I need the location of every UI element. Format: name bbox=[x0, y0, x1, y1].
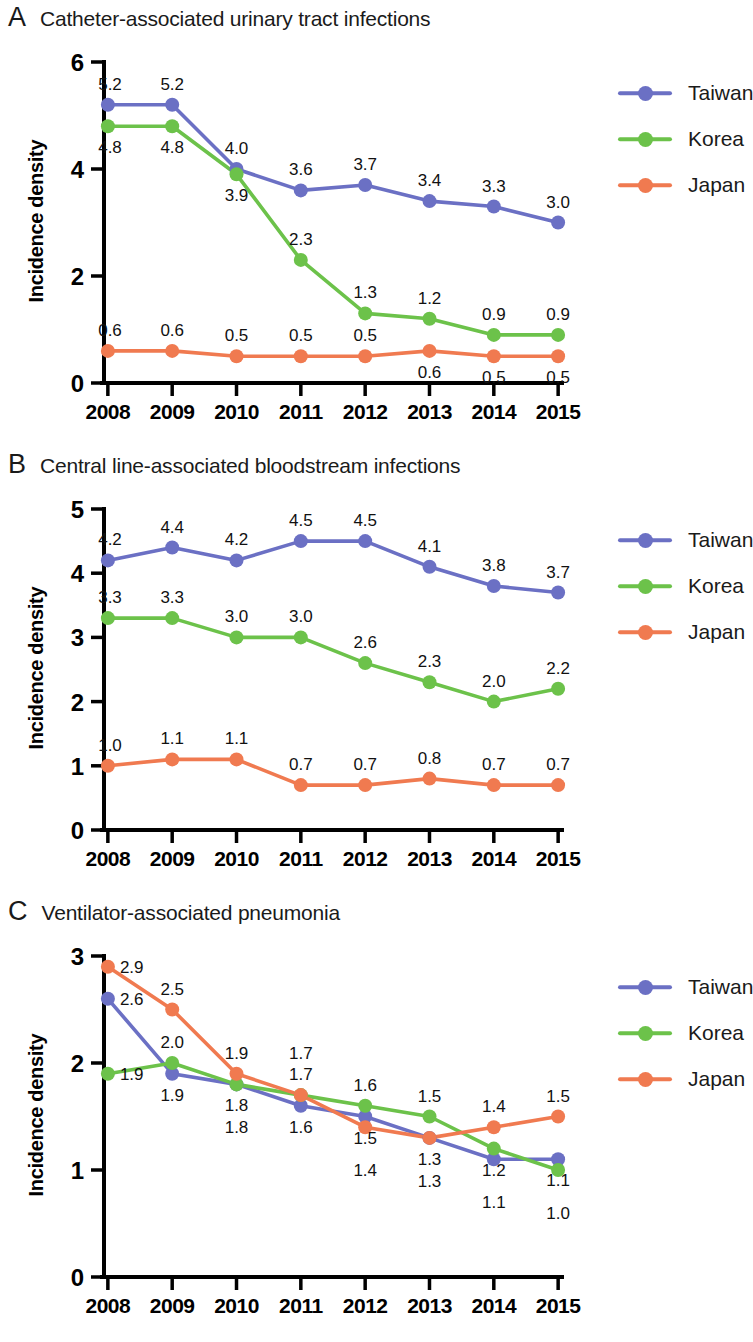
data-label-taiwan: 3.6 bbox=[289, 160, 313, 179]
data-point-japan bbox=[487, 349, 501, 363]
plot-area: 0123200820092010201120122013201420152.61… bbox=[0, 894, 600, 1314]
legend-label: Japan bbox=[688, 1067, 745, 1091]
x-tick-label: 2010 bbox=[214, 400, 259, 423]
x-tick-label: 2010 bbox=[214, 847, 259, 870]
data-point-japan bbox=[165, 1003, 179, 1017]
data-label-taiwan: 3.7 bbox=[353, 155, 377, 174]
data-point-japan bbox=[551, 349, 565, 363]
legend: TaiwanKoreaJapan bbox=[618, 517, 753, 655]
legend-marker-icon bbox=[618, 1070, 672, 1088]
legend-label: Korea bbox=[688, 574, 744, 598]
data-point-taiwan bbox=[294, 183, 308, 197]
data-label-korea: 0.9 bbox=[546, 305, 570, 324]
data-label-taiwan: 3.8 bbox=[482, 556, 506, 575]
data-label-japan: 0.6 bbox=[98, 321, 122, 340]
data-label-japan: 1.1 bbox=[225, 729, 249, 748]
data-point-korea bbox=[487, 695, 501, 709]
data-label-korea: 2.2 bbox=[546, 659, 570, 678]
data-point-japan bbox=[423, 1131, 437, 1145]
data-label-japan: 0.5 bbox=[353, 326, 377, 345]
data-point-korea bbox=[101, 119, 115, 133]
x-tick-label: 2015 bbox=[536, 1294, 582, 1317]
legend-item-taiwan[interactable]: Taiwan bbox=[618, 517, 753, 563]
x-tick-label: 2012 bbox=[343, 400, 388, 423]
legend-marker-icon bbox=[618, 130, 672, 148]
legend-item-korea[interactable]: Korea bbox=[618, 563, 753, 609]
data-label-taiwan: 1.3 bbox=[418, 1150, 442, 1169]
data-point-taiwan bbox=[230, 553, 244, 567]
figure-root: ACatheter-associated urinary tract infec… bbox=[0, 0, 748, 1341]
data-point-japan bbox=[101, 344, 115, 358]
data-label-japan: 2.5 bbox=[160, 980, 184, 999]
x-tick-label: 2008 bbox=[86, 847, 132, 870]
y-tick-label: 3 bbox=[71, 624, 84, 651]
data-label-taiwan: 4.2 bbox=[98, 530, 122, 549]
legend-item-taiwan[interactable]: Taiwan bbox=[618, 964, 753, 1010]
data-point-korea bbox=[551, 328, 565, 342]
legend: TaiwanKoreaJapan bbox=[618, 70, 753, 208]
y-tick-label: 4 bbox=[71, 156, 85, 183]
x-tick-label: 2009 bbox=[150, 400, 195, 423]
data-point-korea bbox=[423, 675, 437, 689]
legend-marker-icon bbox=[618, 176, 672, 194]
legend-item-korea[interactable]: Korea bbox=[618, 116, 753, 162]
y-tick-label: 0 bbox=[71, 817, 84, 844]
data-point-taiwan bbox=[487, 200, 501, 214]
data-point-taiwan bbox=[358, 534, 372, 548]
data-point-japan bbox=[551, 778, 565, 792]
data-point-japan bbox=[294, 1088, 308, 1102]
data-label-taiwan: 4.1 bbox=[418, 537, 442, 556]
data-label-taiwan: 4.2 bbox=[225, 530, 249, 549]
data-label-taiwan: 5.2 bbox=[160, 75, 184, 94]
legend-item-taiwan[interactable]: Taiwan bbox=[618, 70, 753, 116]
x-tick-label: 2014 bbox=[471, 1294, 517, 1317]
data-label-korea: 2.6 bbox=[353, 633, 377, 652]
legend-item-japan[interactable]: Japan bbox=[618, 1056, 753, 1102]
data-point-korea bbox=[487, 328, 501, 342]
data-label-korea: 3.9 bbox=[225, 186, 249, 205]
legend-item-japan[interactable]: Japan bbox=[618, 162, 753, 208]
x-tick-label: 2015 bbox=[536, 400, 582, 423]
x-tick-label: 2013 bbox=[407, 847, 452, 870]
data-label-taiwan: 3.4 bbox=[418, 171, 442, 190]
data-label-japan: 0.8 bbox=[418, 749, 442, 768]
data-label-korea: 1.8 bbox=[225, 1118, 249, 1137]
data-point-japan bbox=[358, 778, 372, 792]
data-label-korea: 2.3 bbox=[418, 652, 442, 671]
data-point-japan bbox=[101, 960, 115, 974]
x-tick-label: 2014 bbox=[471, 847, 517, 870]
data-label-japan: 0.7 bbox=[546, 755, 570, 774]
data-label-korea: 1.5 bbox=[418, 1087, 442, 1106]
legend-item-japan[interactable]: Japan bbox=[618, 609, 753, 655]
x-tick-label: 2015 bbox=[536, 847, 582, 870]
data-label-korea: 1.9 bbox=[120, 1065, 144, 1084]
data-label-korea: 3.0 bbox=[225, 607, 249, 626]
legend-label: Japan bbox=[688, 620, 745, 644]
x-tick-label: 2008 bbox=[86, 400, 132, 423]
data-point-japan bbox=[165, 752, 179, 766]
data-label-taiwan: 1.1 bbox=[546, 1171, 570, 1190]
x-tick-label: 2010 bbox=[214, 1294, 259, 1317]
data-label-taiwan: 4.5 bbox=[289, 511, 313, 530]
x-tick-label: 2013 bbox=[407, 400, 452, 423]
data-label-japan: 0.7 bbox=[353, 755, 377, 774]
data-point-korea bbox=[165, 611, 179, 625]
legend-marker-icon bbox=[618, 84, 672, 102]
legend-label: Taiwan bbox=[688, 975, 753, 999]
data-label-korea: 1.7 bbox=[289, 1065, 313, 1084]
data-label-japan: 1.0 bbox=[98, 736, 122, 755]
data-point-taiwan bbox=[423, 194, 437, 208]
x-tick-label: 2012 bbox=[343, 1294, 388, 1317]
data-point-korea bbox=[230, 630, 244, 644]
x-tick-label: 2011 bbox=[279, 400, 323, 423]
data-point-japan bbox=[165, 344, 179, 358]
data-label-japan: 1.9 bbox=[225, 1044, 249, 1063]
chart-panel-c: CVentilator-associated pneumoniaIncidenc… bbox=[0, 894, 748, 1341]
data-label-taiwan: 5.2 bbox=[98, 75, 122, 94]
plot-area: 0246200820092010201120122013201420155.25… bbox=[0, 0, 600, 420]
legend-item-korea[interactable]: Korea bbox=[618, 1010, 753, 1056]
data-point-korea bbox=[101, 611, 115, 625]
data-label-taiwan: 3.7 bbox=[546, 563, 570, 582]
data-point-japan bbox=[487, 1120, 501, 1134]
plot-area: 012345200820092010201120122013201420154.… bbox=[0, 447, 600, 867]
